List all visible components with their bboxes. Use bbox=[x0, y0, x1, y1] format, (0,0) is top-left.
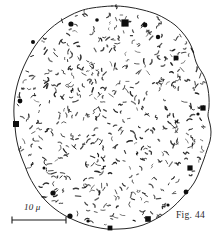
bacterium bbox=[144, 201, 148, 202]
bacterium bbox=[159, 22, 162, 26]
bacterium bbox=[109, 94, 113, 97]
bacterium bbox=[31, 144, 33, 147]
bacterium bbox=[54, 53, 58, 57]
bacterium bbox=[108, 173, 111, 174]
bacterium bbox=[66, 113, 67, 117]
bacterium bbox=[151, 164, 153, 168]
bacterium bbox=[31, 163, 33, 166]
bacterium bbox=[161, 83, 163, 86]
bacterium bbox=[144, 148, 148, 149]
bacterium bbox=[115, 190, 117, 194]
bacterium bbox=[155, 51, 159, 55]
membrane-granule bbox=[18, 99, 23, 104]
bacterium bbox=[185, 42, 186, 44]
bacterium bbox=[158, 139, 160, 141]
bacterium bbox=[80, 55, 81, 60]
membrane-granule bbox=[31, 40, 35, 44]
bacterium bbox=[52, 85, 56, 86]
bacterium bbox=[67, 33, 70, 35]
bacterium bbox=[95, 79, 96, 83]
bacterium bbox=[43, 157, 47, 160]
bacterium bbox=[136, 82, 139, 84]
bacterium bbox=[178, 69, 180, 71]
bacterium bbox=[102, 96, 103, 98]
bacterium bbox=[45, 129, 48, 132]
bacterium bbox=[34, 88, 36, 89]
bacterium bbox=[183, 48, 186, 49]
bacterium bbox=[200, 82, 205, 85]
bacterium bbox=[86, 71, 89, 72]
bacterium bbox=[171, 63, 173, 65]
bacterium bbox=[136, 174, 138, 175]
bacterium bbox=[119, 19, 121, 21]
bacterium bbox=[92, 88, 93, 92]
bacterium bbox=[137, 108, 138, 110]
bacterium bbox=[68, 106, 70, 110]
membrane-granule bbox=[95, 18, 99, 22]
bacterium bbox=[78, 135, 80, 136]
bacterium bbox=[43, 38, 46, 39]
bacterium bbox=[133, 30, 134, 32]
bacterium bbox=[67, 176, 71, 180]
bacterium bbox=[148, 146, 151, 147]
bacterium bbox=[82, 73, 86, 75]
bacterium bbox=[107, 45, 108, 47]
bacterium bbox=[67, 44, 69, 46]
scale-bar bbox=[12, 217, 66, 224]
bacterium bbox=[92, 73, 94, 76]
bacterium bbox=[149, 151, 151, 154]
bacterium bbox=[127, 187, 128, 189]
bacterium bbox=[68, 49, 69, 54]
bacterium bbox=[162, 152, 164, 156]
bacterium bbox=[84, 178, 87, 180]
bacterium bbox=[85, 184, 90, 186]
bacterium bbox=[133, 220, 135, 221]
bacterium bbox=[91, 143, 94, 144]
bacterium bbox=[161, 34, 162, 37]
bacterium bbox=[177, 52, 180, 54]
bacterium bbox=[135, 95, 137, 100]
bacterium bbox=[87, 114, 89, 115]
bacterium bbox=[87, 210, 90, 211]
bacterium bbox=[138, 45, 140, 47]
bacterium bbox=[115, 196, 117, 200]
bacterium bbox=[180, 68, 184, 72]
bacterium bbox=[185, 139, 188, 143]
bacterium bbox=[177, 162, 181, 164]
bacterium bbox=[95, 198, 99, 200]
bacterium bbox=[104, 110, 107, 111]
bacterium bbox=[60, 173, 64, 174]
bacterium bbox=[154, 195, 155, 198]
bacterium bbox=[185, 80, 190, 82]
bacterium bbox=[178, 87, 179, 90]
bacterium bbox=[116, 5, 117, 9]
bacterium bbox=[193, 87, 195, 90]
bacterium bbox=[145, 64, 146, 67]
bacterium bbox=[87, 135, 89, 137]
bacterium bbox=[127, 141, 132, 142]
bacterium bbox=[52, 182, 53, 186]
bacterium bbox=[201, 140, 203, 141]
bacterium bbox=[119, 104, 123, 105]
bacterium bbox=[153, 83, 155, 84]
bacterium bbox=[173, 114, 174, 118]
bacterium bbox=[176, 79, 180, 81]
bacterium bbox=[203, 125, 204, 129]
bacterium bbox=[66, 146, 68, 147]
bacterium bbox=[34, 100, 39, 102]
bacterium bbox=[199, 159, 200, 163]
bacterium bbox=[136, 152, 137, 155]
bacterium bbox=[99, 38, 100, 42]
bacterium bbox=[146, 91, 147, 94]
bacterium bbox=[68, 85, 73, 87]
bacterium bbox=[140, 138, 142, 139]
bacterium bbox=[171, 141, 174, 145]
bacterium bbox=[110, 214, 114, 217]
bacterium bbox=[149, 184, 153, 188]
bacterium bbox=[23, 80, 26, 83]
bacterium bbox=[22, 88, 24, 89]
bacterium bbox=[177, 121, 179, 123]
bacterium bbox=[90, 32, 93, 34]
bacterium bbox=[199, 73, 201, 78]
bacterium bbox=[171, 55, 173, 57]
